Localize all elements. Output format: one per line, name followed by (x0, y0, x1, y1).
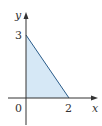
x-axis-arrow-icon (91, 96, 98, 101)
y-axis-arrow-icon (24, 12, 29, 19)
x-intercept-label: 2 (65, 102, 72, 115)
x-axis-label: x (92, 102, 99, 115)
triangle-region-diagram: y 3 0 2 x (0, 0, 102, 126)
y-axis-label: y (14, 9, 22, 22)
origin-label: 0 (15, 102, 22, 115)
y-intercept-label: 3 (15, 29, 22, 42)
